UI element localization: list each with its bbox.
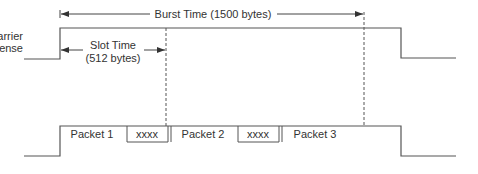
- collision-1-label: xxxx: [136, 128, 159, 140]
- packet-2-label: Packet 2: [182, 128, 225, 140]
- carrier-sense-label-line2: Sense: [0, 42, 23, 54]
- packet-1-label: Packet 1: [71, 128, 114, 140]
- carrier-sense-label-line1: Carrier: [0, 30, 23, 42]
- slot-time-label-line1: Slot Time: [90, 39, 136, 51]
- packet-waveform: Packet 1 xxxx Packet 2 xxxx Packet 3: [24, 126, 456, 156]
- slot-time-arrow: Slot Time (512 bytes): [61, 39, 165, 64]
- packet-3-label: Packet 3: [294, 128, 337, 140]
- burst-timing-diagram: Burst Time (1500 bytes) Carrier Sense Sl…: [0, 0, 478, 174]
- collision-2-label: xxxx: [247, 128, 270, 140]
- burst-time-arrow: Burst Time (1500 bytes): [60, 8, 363, 20]
- burst-time-label: Burst Time (1500 bytes): [155, 8, 272, 20]
- carrier-sense-waveform: Carrier Sense: [0, 28, 456, 59]
- slot-time-label-line2: (512 bytes): [85, 52, 140, 64]
